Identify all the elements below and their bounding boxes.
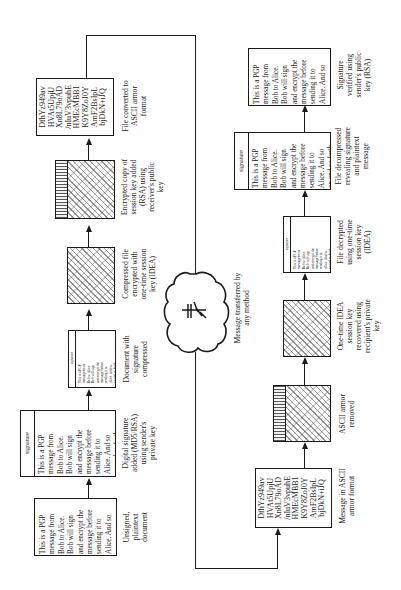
decompressed-label: File decompressed revealing signature an… xyxy=(334,120,370,192)
ascii-message-box: DfhYz949av HVAt5UpjU Xn8L79oAD /nIuV3vpu… xyxy=(255,468,332,528)
session-key-recovered-box xyxy=(283,300,331,357)
box-text: DfhYz949av HVAt5UpjU Xn8L79oAD /nIuV3vpu… xyxy=(258,470,327,526)
connector-line xyxy=(195,352,196,569)
compressed-document-box: signature This is a PGP message from Bob… xyxy=(68,330,116,388)
signature-strip: signature xyxy=(235,133,249,189)
verified-document-box: This is a PGP message from Bob to Alice.… xyxy=(248,48,331,106)
compressed-label: Document with signature compressed xyxy=(122,328,149,390)
signature-strip: signature xyxy=(284,217,291,272)
armor-removed-box xyxy=(273,385,331,442)
arrow-line xyxy=(304,449,305,468)
box-text: DfhYz949av HVAt5UpjU Xn8L79oAD /nIuV3vpu… xyxy=(39,80,108,134)
arrow-up-icon xyxy=(302,273,308,280)
arrow-up-icon xyxy=(302,357,308,364)
connector-line xyxy=(277,535,278,569)
box-text: This is a PGP message from Bob to Alice.… xyxy=(252,135,331,188)
encrypted-file-box xyxy=(67,247,115,304)
arrow-up-icon xyxy=(86,138,92,145)
arrow-up-icon xyxy=(302,105,308,112)
decrypted-file-box: signature This is a PGP message from Bob… xyxy=(283,216,331,273)
arrow-line xyxy=(304,112,305,132)
signature-strip: signature xyxy=(21,411,35,476)
unsigned-label: Unsigned, plaintext document xyxy=(122,498,149,556)
digital-signature-label: Digital signature added (MD5/RSA) using … xyxy=(121,408,157,478)
session-key-recovered-label: One-time IDEA session key recovered usin… xyxy=(336,294,381,358)
signed-document-box: signature This is a PGP message from Bob… xyxy=(20,410,116,477)
arrow-line xyxy=(88,145,89,160)
session-key-added-label: Encrypted copy of session key added (RSA… xyxy=(120,153,165,221)
arrow-line xyxy=(88,316,89,330)
arrow-up-icon xyxy=(302,190,308,197)
arrow-up-icon xyxy=(86,225,92,232)
connector-line xyxy=(195,35,196,274)
connector-line xyxy=(195,568,278,569)
connector-line xyxy=(86,35,87,78)
transfer-label: Message transferred by any method xyxy=(233,268,251,348)
arrow-up-icon xyxy=(86,389,92,396)
encrypted-session-key-strip xyxy=(56,161,68,218)
ascii-message-label: Message in ASCII armor format xyxy=(338,464,356,528)
decompressed-file-box: signature This is a PGP message from Bob… xyxy=(234,132,331,190)
network-cloud-icon xyxy=(160,268,232,356)
arrow-line xyxy=(304,364,305,385)
box-text: This is a PGP message from Bob to Alice.… xyxy=(253,50,328,104)
arrow-line xyxy=(304,197,305,216)
encrypted-with-session-key-box xyxy=(55,160,115,219)
arrow-up-icon xyxy=(86,478,92,485)
encrypted-idea-label: Compressed file encrypted with one-time … xyxy=(121,243,157,305)
arrow-line xyxy=(88,484,89,498)
box-text: This is a PGP message from Bob to Alice.… xyxy=(39,500,114,554)
arrow-up-icon xyxy=(275,528,281,535)
connector-line xyxy=(86,35,196,36)
unsigned-document-box: This is a PGP message from Bob to Alice.… xyxy=(34,498,117,556)
arrow-up-icon xyxy=(86,309,92,316)
box-text: This is a PGP message from Bob to Alice.… xyxy=(293,221,331,269)
box-text: This is a PGP message from Bob to Alice.… xyxy=(38,414,116,474)
arrow-up-icon xyxy=(302,442,308,449)
box-text: This is a PGP message from Bob to Alice.… xyxy=(78,335,116,383)
arrow-line xyxy=(304,280,305,300)
encrypted-session-key-strip xyxy=(274,386,286,441)
signature-strip: signature xyxy=(69,331,76,387)
ascii-armor-box: DfhYz949av HVAt5UpjU Xn8L79oAD /nIuV3vpu… xyxy=(36,78,114,136)
arrow-line xyxy=(88,232,89,247)
armor-removed-label: ASCII armor removed xyxy=(338,384,356,444)
ascii-armor-label: File converted to ASCII armor format xyxy=(121,74,148,138)
decrypted-label: File decrypted using one-time session ke… xyxy=(336,212,372,272)
verified-label: Signature verified using sender's public… xyxy=(336,44,372,106)
arrow-line xyxy=(88,396,89,410)
